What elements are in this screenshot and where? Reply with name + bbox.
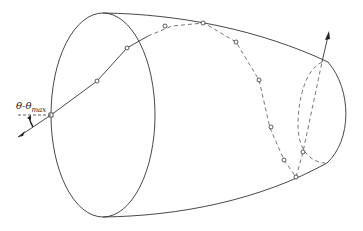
ray-point-marker: [201, 21, 205, 25]
reflection-point-markers: [49, 21, 305, 179]
reflected-ray-dashed: [148, 23, 322, 177]
ray-point-marker: [125, 46, 129, 50]
incoming-ray-arrowhead: [18, 131, 25, 137]
angle-label-theta-max: θ-θmax: [16, 100, 46, 114]
exit-cap-contour: [327, 62, 346, 163]
ray-point-marker: [95, 79, 99, 83]
ray-point-marker: [163, 24, 167, 28]
ray-point-marker: [257, 78, 261, 82]
exit-ray-solid: [322, 36, 328, 62]
ray-point-marker: [301, 150, 305, 154]
lower-wall-contour: [103, 163, 327, 217]
ray-point-marker: [294, 175, 298, 179]
exit-ray-arrowhead: [325, 31, 330, 40]
ray-segment-inside-solid: [51, 36, 148, 115]
max-subscript: max: [31, 106, 46, 114]
ray-point-marker: [269, 125, 273, 129]
concentrator-diagram: [0, 0, 363, 231]
ray-point-marker: [282, 158, 286, 162]
entrance-aperture-ellipse: [51, 13, 155, 217]
ray-point-marker: [234, 40, 238, 44]
